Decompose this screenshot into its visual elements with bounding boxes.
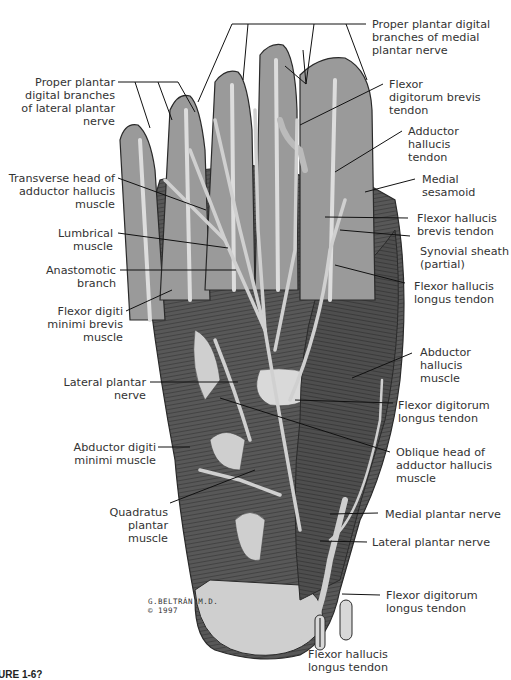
label-fhl-tendon-upper: Flexor hallucis longus tendon: [414, 280, 511, 306]
label-lateral-plantar-nerve-upper: Lateral plantar nerve: [30, 376, 146, 402]
label-fhb-tendon: Flexor hallucis brevis tendon: [417, 212, 511, 238]
label-abductor-digiti-minimi: Abductor digiti minimi muscle: [50, 441, 156, 467]
label-quadratus-plantar: Quadratus plantar muscle: [80, 506, 168, 545]
label-proper-plantar-lateral: Proper plantar digital branches of later…: [15, 76, 115, 128]
label-proper-plantar-medial: Proper plantar digital branches of media…: [372, 18, 511, 57]
label-fhl-tendon-lower: Flexor hallucis longus tendon: [308, 648, 408, 674]
label-lumbrical: Lumbrical muscle: [30, 227, 113, 253]
figure-label: URE 1-6?: [0, 669, 42, 680]
label-anastomotic-branch: Anastomotic branch: [30, 264, 116, 290]
label-medial-sesamoid: Medial sesamoid: [422, 173, 511, 199]
label-fdl-tendon-upper: Flexor digitorum longus tendon: [398, 399, 510, 425]
label-synovial-sheath: Synovial sheath (partial): [420, 245, 511, 271]
label-adductor-hallucis-tendon: Adductor hallucis tendon: [408, 125, 508, 164]
artist-signature: G.BELTRÁN M.D. © 1997: [148, 597, 218, 615]
label-abductor-hallucis: Abductor hallucis muscle: [420, 346, 510, 385]
copyright-text: © 1997: [148, 606, 218, 615]
anatomy-figure: Proper plantar digital branches of later…: [0, 0, 511, 680]
label-medial-plantar-nerve: Medial plantar nerve: [385, 508, 511, 521]
label-fdb-tendon: Flexor digitorum brevis tendon: [389, 78, 509, 117]
signature-text: G.BELTRÁN M.D.: [148, 597, 218, 606]
label-lateral-plantar-nerve-lower: Lateral plantar nerve: [372, 536, 511, 549]
label-oblique-head-adductor: Oblique head of adductor hallucis muscle: [396, 446, 511, 485]
label-flexor-digiti-minimi-brevis: Flexor digiti minimi brevis muscle: [30, 305, 123, 344]
label-transverse-head-adductor: Transverse head of adductor hallucis mus…: [0, 172, 115, 211]
label-fdl-tendon-lower: Flexor digitorum longus tendon: [386, 589, 511, 615]
